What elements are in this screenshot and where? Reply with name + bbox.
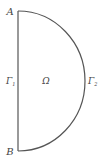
point-b-label: B (5, 146, 13, 157)
half-disk-diagram: A B Γ1 Ω Γ2 (0, 0, 104, 163)
omega-label: Ω (41, 76, 50, 86)
gamma1-label: Γ1 (5, 76, 15, 87)
gamma2-label: Γ2 (87, 76, 97, 87)
boundary-gamma2-arc (18, 11, 85, 151)
point-a-label: A (5, 6, 13, 17)
